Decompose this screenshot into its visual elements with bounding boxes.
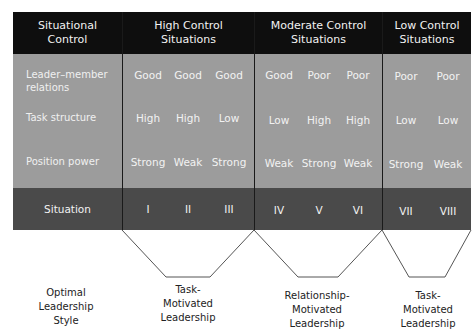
label-line: Leadership (272, 317, 362, 331)
label-line: Motivated (390, 303, 466, 317)
label-line: Relationship- (272, 289, 362, 303)
label-line: Leadership (390, 317, 466, 331)
label-line: Optimal (30, 286, 102, 300)
label-line: Leadership (150, 311, 226, 325)
label-line: Motivated (150, 297, 226, 311)
label-line: Motivated (272, 303, 362, 317)
style-task-motivated-low: Task- Motivated Leadership (390, 289, 466, 331)
label-line: Task- (150, 283, 226, 297)
label-line: Task- (390, 289, 466, 303)
style-brackets (0, 0, 475, 331)
label-line: Leadership (30, 300, 102, 314)
label-line: Style (30, 314, 102, 328)
style-task-motivated-high: Task- Motivated Leadership (150, 283, 226, 325)
style-relationship-motivated: Relationship- Motivated Leadership (272, 289, 362, 331)
optimal-leadership-style-label: Optimal Leadership Style (30, 286, 102, 328)
